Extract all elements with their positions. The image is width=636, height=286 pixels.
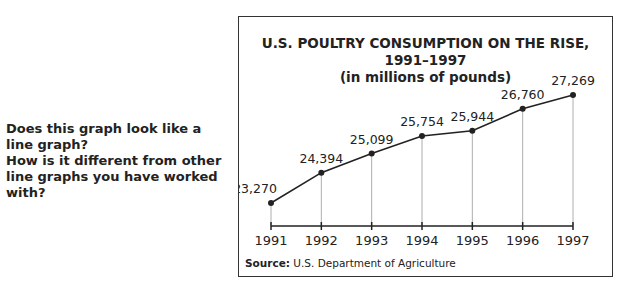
data-label: 26,760: [501, 87, 545, 102]
question-line: with?: [6, 185, 236, 201]
x-tick-label: 1994: [405, 233, 438, 248]
x-tick-label: 1995: [456, 233, 489, 248]
question-line: line graphs you have worked: [6, 169, 236, 185]
chart-frame: U.S. POULTRY CONSUMPTION ON THE RISE, 19…: [238, 16, 613, 277]
x-tick-label: 1992: [305, 233, 338, 248]
line-plot: 199119921993199419951996199723,27024,394…: [239, 17, 614, 278]
data-label: 25,944: [450, 109, 494, 124]
data-point: [419, 133, 425, 139]
question-text: Does this graph look like a line graph? …: [6, 121, 236, 201]
x-tick-label: 1991: [254, 233, 287, 248]
data-label: 24,394: [299, 151, 343, 166]
source-note: Source: U.S. Department of Agriculture: [245, 257, 456, 269]
data-label: 27,269: [551, 73, 595, 88]
data-point: [318, 170, 324, 176]
data-point: [520, 106, 526, 112]
source-label: Source:: [245, 257, 290, 269]
data-point: [369, 151, 375, 157]
data-point: [570, 92, 576, 98]
data-label: 23,270: [239, 181, 277, 196]
question-line: How is it different from other: [6, 153, 236, 169]
x-tick-label: 1996: [506, 233, 539, 248]
question-line: Does this graph look like a: [6, 121, 236, 137]
data-point: [469, 128, 475, 134]
data-label: 25,099: [350, 132, 394, 147]
data-label: 25,754: [400, 114, 444, 129]
x-tick-label: 1997: [556, 233, 589, 248]
data-point: [268, 200, 274, 206]
question-line: line graph?: [6, 137, 236, 153]
source-text: U.S. Department of Agriculture: [293, 257, 455, 269]
x-tick-label: 1993: [355, 233, 388, 248]
